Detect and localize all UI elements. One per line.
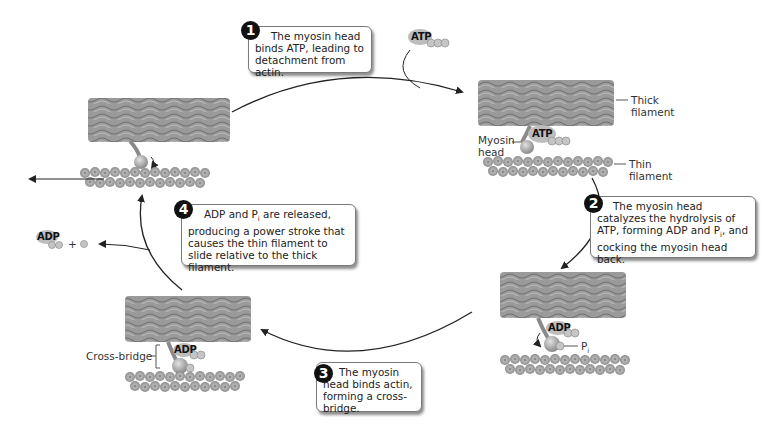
step-4-callout: ADP and Pi are released, producing a pow… (181, 204, 356, 266)
step-1-badge: 1 (241, 21, 260, 40)
step-2-badge: 2 (584, 194, 603, 213)
pi-label: Pi (581, 340, 589, 357)
cross-bridge-label: Cross-bridge (86, 350, 152, 362)
adp-label-cross-bridge: ADP (174, 344, 196, 355)
step-4-badge: 4 (174, 200, 193, 219)
panel-start (30, 98, 230, 188)
panel-atp-bound (478, 80, 628, 177)
thick-filament (500, 272, 626, 318)
step-2-callout: The myosin head catalyzes the hydrolysis… (590, 196, 756, 258)
adp-label-cocked: ADP (548, 322, 570, 333)
myosin-head-label: Myosin head (478, 134, 516, 158)
atp-label-bound: ATP (532, 128, 552, 139)
thin-filament (125, 371, 245, 392)
step-3-badge: 3 (314, 364, 333, 383)
arrow-step-1 (232, 77, 462, 112)
thin-filament (500, 354, 630, 375)
thin-filament-label: Thin filament (629, 158, 679, 182)
thin-filament (80, 167, 210, 188)
adp-label-released: ADP (37, 231, 59, 242)
thick-filament (125, 296, 251, 342)
thick-filament-label: Thick filament (631, 94, 681, 118)
myosin-head (520, 140, 534, 154)
myosin-head (134, 155, 148, 169)
arrow-release (100, 244, 150, 250)
step-3-text: The myosin head binds actin, forming a c… (323, 366, 413, 414)
thick-filament (478, 80, 614, 126)
step-4-text-a: ADP and P (204, 208, 258, 220)
plus-sign: + (68, 238, 77, 250)
atp-label-incoming: ATP (411, 31, 431, 42)
arrow-step-3 (262, 312, 472, 351)
step-1-callout: The myosin head binds ATP, leading to de… (248, 26, 372, 73)
step-2-text-a: The myosin head catalyzes the hydrolysis… (597, 200, 735, 236)
thin-filament (483, 156, 613, 177)
step-1-text: The myosin head binds ATP, leading to de… (255, 30, 364, 78)
thick-filament (88, 98, 230, 142)
